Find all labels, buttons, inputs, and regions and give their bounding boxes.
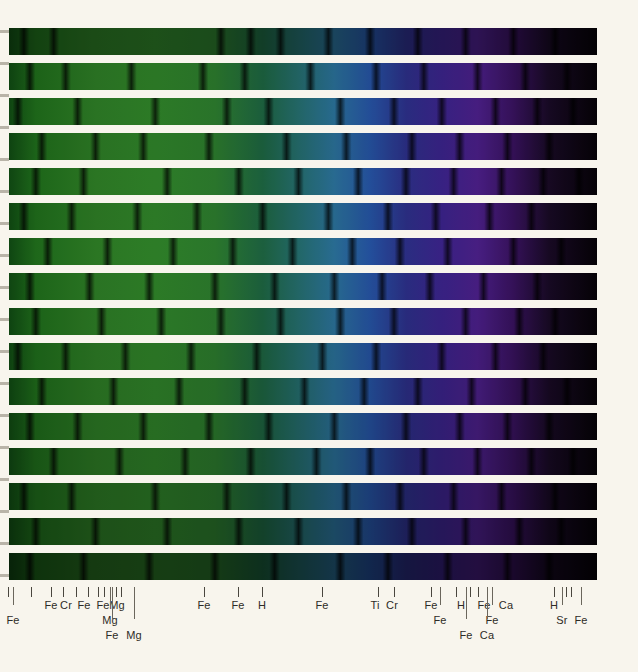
absorption-lines — [0, 413, 597, 440]
margin-tick — [0, 414, 9, 417]
axis-leader-tick — [562, 587, 563, 605]
absorption-lines — [0, 378, 597, 405]
axis-tick — [456, 587, 457, 597]
axis-tick — [394, 587, 395, 597]
margin-tick — [0, 574, 9, 577]
spectrum-strip — [0, 378, 597, 405]
element-line-label: Sr — [556, 614, 567, 626]
element-line-label: Ca — [480, 629, 494, 641]
element-line-label: Fe — [424, 599, 437, 611]
margin-tick — [0, 254, 9, 257]
element-line-label: Fe — [459, 629, 472, 641]
element-line-label: Fe — [77, 599, 90, 611]
element-line-label: Fe — [6, 614, 19, 626]
spectrum-strip — [0, 413, 597, 440]
absorption-lines — [0, 133, 597, 160]
element-line-label: H — [457, 599, 465, 611]
axis-tick — [566, 587, 567, 597]
spectrum-strip — [0, 238, 597, 265]
element-line-label: Cr — [60, 599, 72, 611]
element-line-label: Ti — [370, 599, 379, 611]
element-line-label: Fe — [231, 599, 244, 611]
spectrum-strip — [0, 133, 597, 160]
absorption-lines — [0, 28, 597, 55]
axis-leader-tick — [466, 587, 467, 619]
axis-tick — [8, 587, 9, 597]
absorption-lines — [0, 168, 597, 195]
margin-tick — [0, 222, 9, 225]
element-line-label: Fe — [477, 599, 490, 611]
axis-tick — [554, 587, 555, 597]
spectrum-strip — [0, 553, 597, 580]
spectrum-strip — [0, 98, 597, 125]
margin-tick — [0, 94, 9, 97]
absorption-lines — [0, 238, 597, 265]
absorption-lines — [0, 553, 597, 580]
absorption-lines — [0, 448, 597, 475]
spectrum-stack — [0, 28, 597, 587]
element-line-label: Fe — [574, 614, 587, 626]
axis-leader-tick — [112, 587, 113, 619]
element-line-label: Fe — [315, 599, 328, 611]
spectrum-strip — [0, 448, 597, 475]
left-margin-ruler — [0, 28, 9, 587]
axis-tick — [571, 587, 572, 597]
margin-tick — [0, 190, 9, 193]
absorption-lines — [0, 63, 597, 90]
axis-tick — [478, 587, 479, 597]
axis-tick — [76, 587, 77, 597]
absorption-lines — [0, 98, 597, 125]
margin-tick — [0, 62, 9, 65]
axis-leader-tick — [13, 587, 14, 605]
spectrum-strip — [0, 518, 597, 545]
element-line-label: Ca — [499, 599, 513, 611]
spectrum-strip — [0, 168, 597, 195]
margin-tick — [0, 30, 9, 33]
margin-tick — [0, 286, 9, 289]
absorption-lines — [0, 518, 597, 545]
absorption-lines — [0, 308, 597, 335]
axis-tick — [51, 587, 52, 597]
line-identification-axis: FeFeCrFeFeMgMgFeMgFeFeHFeTiCrFeFeHFeCaFe… — [0, 587, 638, 672]
absorption-lines — [0, 203, 597, 230]
spectrum-strip — [0, 28, 597, 55]
margin-tick — [0, 542, 9, 545]
axis-tick — [88, 587, 89, 597]
spectrum-strip — [0, 203, 597, 230]
element-line-label: Fe — [105, 629, 118, 641]
spectrum-strip — [0, 63, 597, 90]
margin-tick — [0, 318, 9, 321]
axis-tick — [322, 587, 323, 597]
margin-tick — [0, 446, 9, 449]
spectrum-strip — [0, 273, 597, 300]
axis-tick — [262, 587, 263, 597]
absorption-lines — [0, 483, 597, 510]
element-line-label: H — [550, 599, 558, 611]
margin-tick — [0, 350, 9, 353]
axis-tick — [238, 587, 239, 597]
axis-tick — [121, 587, 122, 597]
axis-tick — [431, 587, 432, 597]
element-line-label: Mg — [102, 614, 118, 626]
spectrum-strip — [0, 483, 597, 510]
element-line-label: Fe — [96, 599, 109, 611]
margin-tick — [0, 510, 9, 513]
axis-tick — [98, 587, 99, 597]
axis-leader-tick — [487, 587, 488, 619]
spectrum-strip — [0, 343, 597, 370]
element-line-label: Fe — [44, 599, 57, 611]
axis-tick — [31, 587, 32, 597]
axis-tick — [63, 587, 64, 597]
element-line-label: Fe — [433, 614, 446, 626]
absorption-lines — [0, 273, 597, 300]
axis-tick — [116, 587, 117, 597]
axis-leader-tick — [581, 587, 582, 605]
margin-tick — [0, 158, 9, 161]
axis-leader-tick — [134, 587, 135, 619]
axis-tick — [378, 587, 379, 597]
axis-tick — [470, 587, 471, 597]
element-line-label: Mg — [126, 629, 142, 641]
axis-tick — [204, 587, 205, 597]
margin-tick — [0, 126, 9, 129]
axis-leader-tick — [110, 587, 111, 605]
